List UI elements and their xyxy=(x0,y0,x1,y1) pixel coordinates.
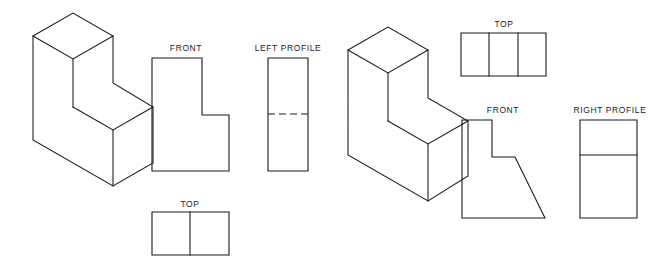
iso-l-block-silhouette xyxy=(33,13,153,186)
right-profile-view-label: RIGHT PROFILE xyxy=(574,105,647,115)
front-view-label-2: FRONT xyxy=(487,105,519,115)
orthographic-projection-canvas: FRONT LEFT PROFILE TOP xyxy=(0,0,662,271)
iso-inclined-block-silhouette xyxy=(348,27,468,201)
figure-1-top-view: TOP xyxy=(152,199,229,255)
right-profile-view-outline xyxy=(580,120,637,218)
iso-l-block-step-face-edges xyxy=(73,107,153,130)
figure-1-front-view: FRONT xyxy=(152,43,229,171)
figure-2-top-view: TOP xyxy=(461,19,546,76)
iso-l-block-top-face-edges xyxy=(33,36,113,59)
iso-inclined-block-step-face-edges xyxy=(388,121,468,144)
top-view-label: TOP xyxy=(180,199,199,209)
isometric-l-block xyxy=(33,13,153,186)
drawing-sheet: FRONT LEFT PROFILE TOP xyxy=(0,0,662,271)
figure-1-group: FRONT LEFT PROFILE TOP xyxy=(33,13,321,255)
left-profile-view-label: LEFT PROFILE xyxy=(255,43,322,53)
top-view-outline-2 xyxy=(461,33,546,76)
figure-2-front-view: FRONT xyxy=(462,105,545,218)
front-view-outline xyxy=(152,58,229,171)
front-view-label: FRONT xyxy=(170,43,202,53)
figure-1-left-profile-view: LEFT PROFILE xyxy=(255,43,322,171)
iso-inclined-block-top-face-edges xyxy=(348,50,428,73)
front-view-outline-2 xyxy=(462,120,545,218)
figure-2-right-profile-view: RIGHT PROFILE xyxy=(574,105,647,218)
isometric-inclined-block xyxy=(348,27,468,201)
top-view-label-2: TOP xyxy=(494,19,513,29)
figure-2-group: TOP FRONT RIGHT PROFILE xyxy=(348,19,646,218)
